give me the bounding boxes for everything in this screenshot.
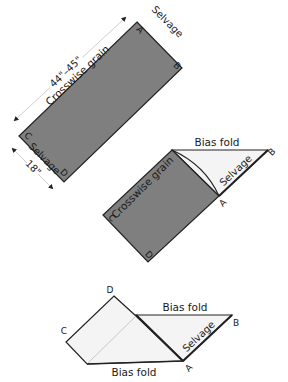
corner-a-label: A: [217, 197, 229, 209]
corner-b-label: B: [233, 318, 239, 328]
corner-c-label: C: [61, 326, 67, 336]
bias-fold-label: Bias fold: [194, 136, 239, 148]
diagram-svg: 44"–45" 18" Crosswise grain Selvage Selv…: [0, 0, 288, 382]
selvage-top-label: Selvage: [150, 4, 186, 40]
corner-d-label: D: [107, 285, 114, 295]
bias-fold-top-label: Bias fold: [162, 301, 207, 313]
corner-a-label: A: [183, 362, 195, 374]
bias-fold-diagram: 44"–45" 18" Crosswise grain Selvage Selv…: [0, 0, 288, 382]
corner-b-label: B: [266, 146, 277, 157]
bias-fold-bottom-label: Bias fold: [111, 366, 156, 378]
figure-step3: Bias fold Bias fold Selvage A B C D: [61, 285, 239, 378]
figure-step2: Bias fold Crosswise grain Selvage A B C …: [103, 136, 278, 262]
